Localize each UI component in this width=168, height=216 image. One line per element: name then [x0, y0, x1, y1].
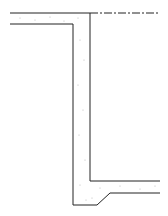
- concrete-section: [10, 13, 160, 205]
- section-drawing: [0, 0, 168, 216]
